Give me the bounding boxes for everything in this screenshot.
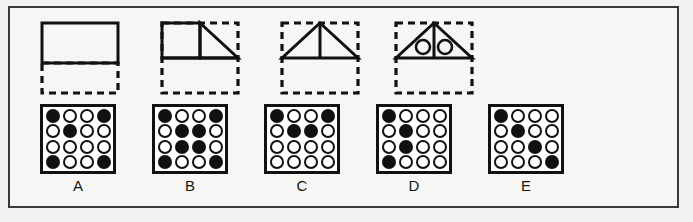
dot-d-r3c1 <box>382 140 396 154</box>
dot-b-r2c4 <box>209 124 223 138</box>
dot-c-r2c1 <box>270 124 284 138</box>
answer-label-b: B <box>142 177 238 195</box>
dot-b-r4c4 <box>209 155 223 169</box>
dot-e-r1c1 <box>494 109 508 123</box>
dot-a-r2c3 <box>80 124 94 138</box>
dot-e-r4c2 <box>511 155 525 169</box>
dot-a-r2c1 <box>46 124 60 138</box>
dot-d-r4c4 <box>433 155 447 169</box>
dot-a-r2c2 <box>63 124 77 138</box>
dot-d-r1c2 <box>399 109 413 123</box>
dot-e-r3c3 <box>528 140 542 154</box>
dot-a-r3c2 <box>63 140 77 154</box>
dot-e-r3c1 <box>494 140 508 154</box>
rectangle-over-dashed-box-icon <box>34 16 130 98</box>
dot-grid-d[interactable] <box>376 104 452 174</box>
dot-c-r4c2 <box>287 155 301 169</box>
dot-d-r1c3 <box>416 109 430 123</box>
dot-b-r1c1 <box>158 109 172 123</box>
dot-a-r1c1 <box>46 109 60 123</box>
dot-c-r1c3 <box>304 109 318 123</box>
dot-d-r4c2 <box>399 155 413 169</box>
dot-e-r4c1 <box>494 155 508 169</box>
dot-d-r2c2 <box>399 124 413 138</box>
dot-c-r1c4 <box>321 109 335 123</box>
shape-panel-square-and-triangle <box>154 16 250 98</box>
dot-c-r1c1 <box>270 109 284 123</box>
answer-option-a[interactable]: A <box>30 104 126 204</box>
dot-grid-b[interactable] <box>152 104 228 174</box>
dot-e-r1c3 <box>528 109 542 123</box>
dot-e-r2c4 <box>545 124 559 138</box>
dot-c-r3c3 <box>304 140 318 154</box>
puzzle-frame: A B C D E <box>8 6 679 208</box>
dot-a-r1c3 <box>80 109 94 123</box>
dot-c-r4c4 <box>321 155 335 169</box>
dot-b-r3c2 <box>175 140 189 154</box>
answer-options-row: A B C D E <box>22 104 662 204</box>
dot-b-r2c2 <box>175 124 189 138</box>
dot-c-r4c1 <box>270 155 284 169</box>
answer-label-e: E <box>478 177 574 195</box>
dot-d-r3c3 <box>416 140 430 154</box>
answer-option-d[interactable]: D <box>366 104 462 204</box>
dot-grid-a[interactable] <box>40 104 116 174</box>
dot-d-r3c4 <box>433 140 447 154</box>
dot-a-r4c1 <box>46 155 60 169</box>
dot-b-r4c3 <box>192 155 206 169</box>
answer-option-b[interactable]: B <box>142 104 238 204</box>
dot-a-r4c2 <box>63 155 77 169</box>
dot-c-r3c1 <box>270 140 284 154</box>
shape-sequence-row <box>22 16 662 98</box>
dot-e-r1c2 <box>511 109 525 123</box>
dot-d-r1c4 <box>433 109 447 123</box>
triangle-with-two-circles-icon <box>388 16 484 98</box>
dot-a-r4c4 <box>97 155 111 169</box>
dot-d-r1c1 <box>382 109 396 123</box>
dot-d-r4c1 <box>382 155 396 169</box>
dot-c-r3c4 <box>321 140 335 154</box>
shape-panel-triangle-with-two-circles <box>388 16 484 98</box>
dot-e-r3c2 <box>511 140 525 154</box>
dot-e-r1c4 <box>545 109 559 123</box>
dot-d-r2c4 <box>433 124 447 138</box>
dot-c-r2c3 <box>304 124 318 138</box>
dot-d-r2c3 <box>416 124 430 138</box>
answer-option-e[interactable]: E <box>478 104 574 204</box>
answer-label-c: C <box>254 177 350 195</box>
dot-grid-c[interactable] <box>264 104 340 174</box>
puzzle-page: A B C D E <box>0 0 693 222</box>
dot-b-r3c3 <box>192 140 206 154</box>
dot-d-r2c1 <box>382 124 396 138</box>
dot-e-r4c4 <box>545 155 559 169</box>
dot-b-r2c3 <box>192 124 206 138</box>
dot-e-r4c3 <box>528 155 542 169</box>
dot-c-r3c2 <box>287 140 301 154</box>
dot-e-r2c3 <box>528 124 542 138</box>
dot-b-r1c2 <box>175 109 189 123</box>
answer-label-a: A <box>30 177 126 195</box>
dot-b-r3c1 <box>158 140 172 154</box>
dot-b-r1c3 <box>192 109 206 123</box>
dot-a-r3c4 <box>97 140 111 154</box>
dot-a-r3c1 <box>46 140 60 154</box>
dot-c-r2c2 <box>287 124 301 138</box>
answer-option-c[interactable]: C <box>254 104 350 204</box>
shape-panel-rectangle-over-dashed-box <box>34 16 130 98</box>
dot-a-r4c3 <box>80 155 94 169</box>
dot-e-r2c1 <box>494 124 508 138</box>
dot-c-r4c3 <box>304 155 318 169</box>
dot-a-r3c3 <box>80 140 94 154</box>
dot-e-r2c2 <box>511 124 525 138</box>
dot-b-r2c1 <box>158 124 172 138</box>
dot-b-r3c4 <box>209 140 223 154</box>
dot-b-r4c1 <box>158 155 172 169</box>
dot-d-r4c3 <box>416 155 430 169</box>
dot-a-r1c4 <box>97 109 111 123</box>
dot-b-r1c4 <box>209 109 223 123</box>
dot-a-r1c2 <box>63 109 77 123</box>
shape-panel-triangle-with-median <box>274 16 370 98</box>
dot-c-r2c4 <box>321 124 335 138</box>
dot-a-r2c4 <box>97 124 111 138</box>
dot-grid-e[interactable] <box>488 104 564 174</box>
